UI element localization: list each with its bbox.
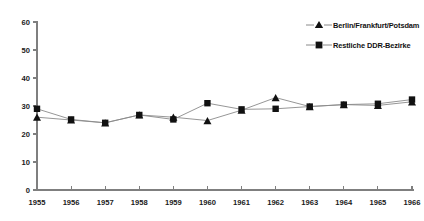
x-axis-tick-labels: 1955195619571958195919601961196219631964… [29, 198, 421, 207]
x-tick-label: 1961 [233, 198, 251, 207]
data-point-marker [307, 103, 313, 109]
data-point-marker [170, 116, 176, 122]
data-point-marker [272, 94, 280, 101]
legend-item-0: Berlin/Frankfurt/Potsdam [306, 17, 424, 33]
data-point-marker [238, 106, 244, 112]
y-tick-label: 30 [22, 102, 30, 111]
x-tick-label: 1962 [267, 198, 284, 207]
chart-legend: Berlin/Frankfurt/Potsdam Restliche DDR-B… [306, 17, 424, 53]
x-tick-label: 1955 [29, 198, 47, 207]
x-tick-label: 1964 [335, 198, 353, 207]
series-line-1 [37, 100, 412, 123]
x-tick-label: 1958 [131, 198, 148, 207]
y-tick-label: 10 [22, 158, 30, 167]
y-tick-label: 0 [26, 186, 30, 195]
x-tick-label: 1963 [301, 198, 318, 207]
x-tick-label: 1965 [369, 198, 387, 207]
data-point-marker [409, 96, 415, 102]
x-tick-label: 1957 [97, 198, 114, 207]
legend-item-1: Restliche DDR-Bezirke [306, 37, 424, 53]
x-tick-label: 1960 [199, 198, 216, 207]
data-point-marker [136, 112, 142, 118]
y-tick-label: 60 [22, 18, 30, 27]
x-tick-label: 1956 [63, 198, 80, 207]
legend-label-1: Restliche DDR-Bezirke [332, 41, 411, 50]
chart-container: 0102030405060 19551956195719581959196019… [0, 0, 424, 221]
series-line-0 [37, 98, 412, 123]
x-tick-label: 1966 [404, 198, 421, 207]
triangle-marker-icon [306, 19, 332, 31]
square-marker-icon [306, 39, 332, 51]
data-point-marker [375, 101, 381, 107]
data-point-marker [204, 100, 210, 106]
y-tick-label: 50 [22, 46, 30, 55]
y-tick-label: 20 [22, 130, 30, 139]
y-axis-tick-labels: 0102030405060 [22, 18, 30, 195]
data-series [33, 94, 416, 126]
data-point-marker [34, 106, 40, 112]
data-point-marker [272, 106, 278, 112]
data-point-marker [68, 116, 74, 122]
legend-label-0: Berlin/Frankfurt/Potsdam [332, 21, 419, 30]
x-tick-label: 1959 [165, 198, 182, 207]
data-point-marker [341, 101, 347, 107]
data-point-marker [102, 120, 108, 126]
y-tick-label: 40 [22, 74, 30, 83]
